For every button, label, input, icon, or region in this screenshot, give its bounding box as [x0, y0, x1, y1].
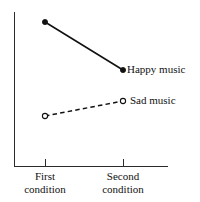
x-axis-label-second-condition: Second condition — [83, 170, 163, 195]
series-label-sad-music: Sad music — [130, 95, 176, 106]
x-axis-label-first-condition-line1: First — [5, 170, 85, 183]
x-axis-label-second-condition-line1: Second — [83, 170, 163, 183]
series-label-happy-music: Happy music — [127, 64, 185, 75]
series-line-happy-music — [45, 22, 123, 70]
x-axis-label-first-condition-line2: condition — [5, 183, 85, 196]
datapoint-sad-music-second-condition — [120, 98, 125, 103]
x-axis-label-first-condition: First condition — [5, 170, 85, 195]
datapoint-happy-music-second-condition — [120, 67, 125, 72]
datapoint-sad-music-first-condition — [42, 113, 47, 118]
interaction-line-chart: Happy music Sad music First condition Se… — [0, 0, 200, 202]
datapoint-happy-music-first-condition — [42, 19, 47, 24]
series-line-sad-music — [45, 101, 123, 116]
x-axis-label-second-condition-line2: condition — [83, 183, 163, 196]
